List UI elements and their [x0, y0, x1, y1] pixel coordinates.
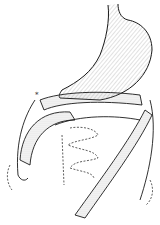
- intestinal-loops: [17, 92, 153, 218]
- anatomical-illustration: *: [0, 0, 160, 225]
- stomach: [59, 4, 152, 100]
- annotation-asterisk: *: [35, 92, 39, 99]
- illustration-drawing: [0, 0, 160, 225]
